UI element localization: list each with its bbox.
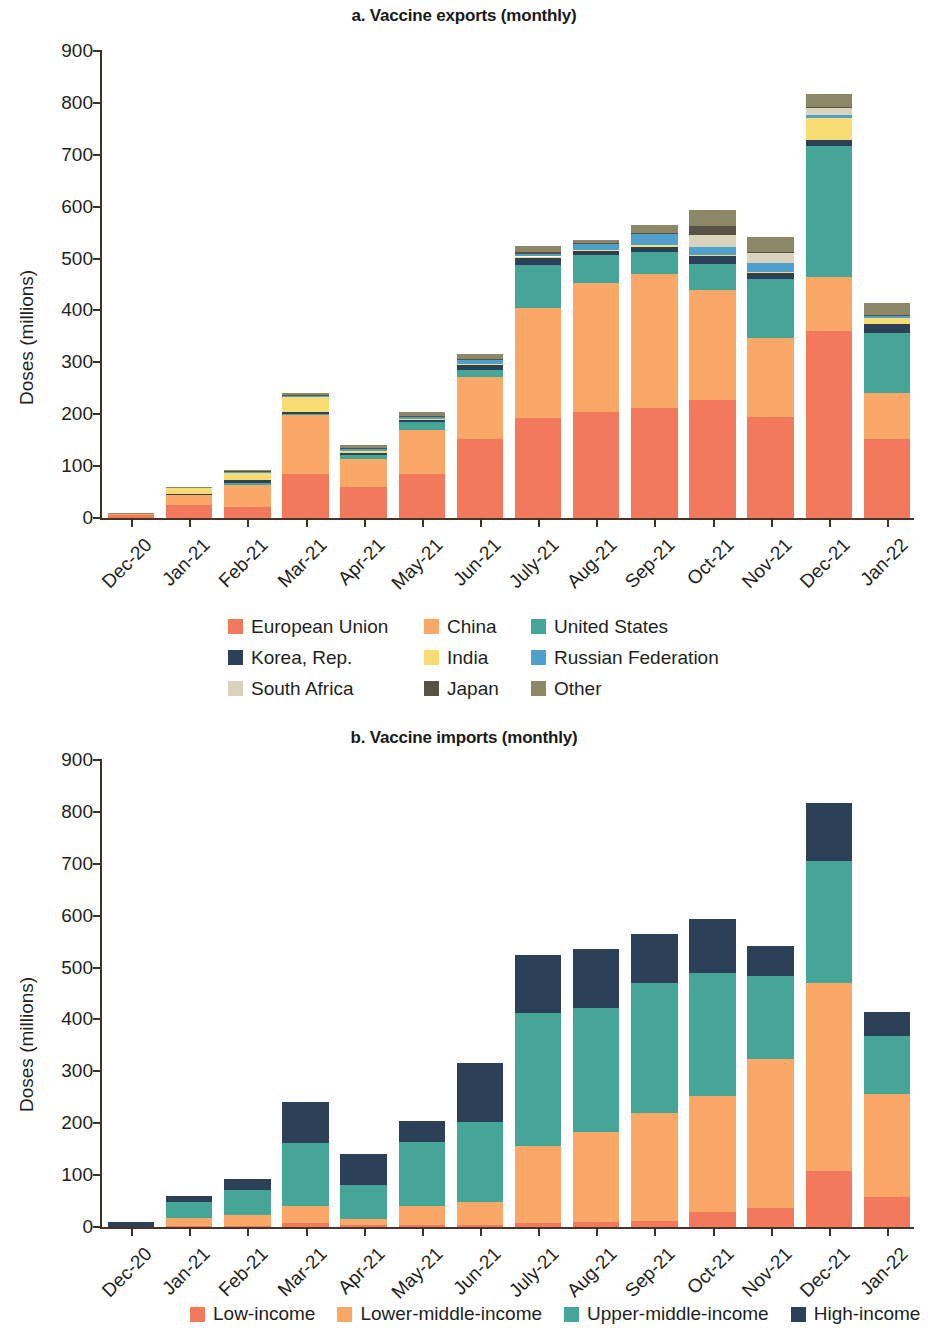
bar-segment: [573, 244, 620, 250]
bar-segment: [747, 263, 794, 272]
legend-exports-label: European Union: [251, 616, 388, 638]
bar-segment: [457, 1202, 504, 1225]
plot-area-imports: 0100200300400500600700800900Dec-20Jan-21…: [100, 760, 914, 1229]
legend-exports-item[interactable]: Korea, Rep.: [228, 644, 424, 671]
legend-imports-label: High-income: [814, 1303, 921, 1325]
bar-segment: [515, 265, 562, 308]
legend-swatch-icon: [424, 619, 439, 634]
x-axis-tick-mark: [189, 518, 191, 527]
bar-segment: [457, 364, 504, 365]
legend-imports-item[interactable]: Low-income: [190, 1303, 315, 1325]
legend-exports-item[interactable]: India: [424, 644, 531, 671]
legend-exports-label: Russian Federation: [554, 647, 719, 669]
bar-july-21: [515, 760, 562, 1227]
bar-segment: [515, 252, 562, 254]
bar-segment: [340, 449, 387, 451]
x-axis-tick-mark: [538, 1227, 540, 1236]
bar-segment: [224, 483, 271, 485]
y-axis-tick-label: 400: [33, 299, 93, 321]
x-axis-tick-mark: [654, 1227, 656, 1236]
bar-segment: [689, 247, 736, 256]
bar-segment: [689, 235, 736, 247]
bar-segment: [631, 274, 678, 408]
bar-segment: [573, 412, 620, 518]
bar-jan-22: [864, 760, 911, 1227]
bar-mar-21: [282, 760, 329, 1227]
bar-segment: [282, 393, 329, 395]
bar-segment: [282, 1223, 329, 1227]
bar-segment: [224, 471, 271, 472]
bar-dec-21: [806, 760, 853, 1227]
bar-segment: [573, 251, 620, 256]
bar-segment: [864, 324, 911, 333]
legend-imports-item[interactable]: Lower-middle-income: [337, 1303, 542, 1325]
bar-segment: [340, 1219, 387, 1226]
bar-segment: [515, 418, 562, 518]
x-axis-tick-mark: [480, 518, 482, 527]
legend-exports-label: Korea, Rep.: [251, 647, 352, 669]
bar-segment: [747, 976, 794, 1059]
y-axis-tick-mark: [93, 465, 102, 467]
y-axis-title-exports: Doses (millions): [16, 270, 38, 405]
bar-segment: [747, 252, 794, 254]
legend-imports: Low-incomeLower-middle-incomeUpper-middl…: [190, 1303, 928, 1325]
bar-segment: [340, 451, 387, 454]
legend-exports-item[interactable]: United States: [531, 613, 748, 640]
bar-segment: [806, 140, 853, 146]
y-axis-tick-label: 600: [33, 905, 93, 927]
legend-swatch-icon: [531, 619, 546, 634]
bar-segment: [399, 420, 446, 422]
bar-segment: [573, 255, 620, 283]
legend-imports-label: Low-income: [213, 1303, 315, 1325]
y-axis-tick-label: 600: [33, 196, 93, 218]
bar-segment: [747, 279, 794, 338]
y-axis-tick-label: 800: [33, 92, 93, 114]
bar-segment: [515, 1146, 562, 1223]
legend-exports-label: South Africa: [251, 678, 353, 700]
bar-segment: [224, 1190, 271, 1215]
x-axis-tick-mark: [131, 1227, 133, 1236]
bar-segment: [689, 290, 736, 400]
x-axis-tick-mark: [247, 518, 249, 527]
x-axis-tick-mark: [887, 518, 889, 527]
bar-segment: [457, 377, 504, 438]
bar-segment: [747, 1059, 794, 1208]
bar-segment: [806, 94, 853, 107]
legend-swatch-icon: [424, 681, 439, 696]
y-axis-tick-mark: [93, 102, 102, 104]
bar-segment: [806, 107, 853, 108]
bar-segment: [457, 1122, 504, 1202]
bar-aug-21: [573, 760, 620, 1227]
bar-nov-21: [747, 760, 794, 1227]
legend-exports-item[interactable]: China: [424, 613, 531, 640]
y-axis-tick-mark: [93, 361, 102, 363]
legend-exports-item[interactable]: Japan: [424, 675, 531, 702]
bar-segment: [631, 252, 678, 274]
bar-segment: [224, 473, 271, 480]
panel-vaccine-imports: b. Vaccine imports (monthly) Doses (mill…: [0, 712, 928, 1337]
y-axis-tick-label: 700: [33, 853, 93, 875]
bar-segment: [806, 146, 853, 277]
bar-segment: [573, 283, 620, 412]
bar-segment: [340, 453, 387, 455]
bar-segment: [108, 513, 155, 514]
legend-exports-item[interactable]: Other: [531, 675, 748, 702]
y-axis-tick-label: 800: [33, 801, 93, 823]
legend-imports-item[interactable]: Upper-middle-income: [564, 1303, 769, 1325]
bar-segment: [282, 395, 329, 396]
bar-segment: [515, 258, 562, 265]
legend-imports-item[interactable]: High-income: [791, 1303, 921, 1325]
y-axis-tick-mark: [93, 759, 102, 761]
legend-exports-item[interactable]: South Africa: [228, 675, 424, 702]
bar-segment: [282, 1143, 329, 1206]
legend-exports-item[interactable]: European Union: [228, 613, 424, 640]
legend-exports-label: United States: [554, 616, 668, 638]
bar-segment: [457, 439, 504, 518]
y-axis-tick-mark: [93, 206, 102, 208]
y-axis-tick-mark: [93, 863, 102, 865]
bar-dec-20: [108, 760, 155, 1227]
bar-apr-21: [340, 760, 387, 1227]
bar-segment: [399, 416, 446, 419]
legend-swatch-icon: [424, 650, 439, 665]
legend-exports-item[interactable]: Russian Federation: [531, 644, 748, 671]
